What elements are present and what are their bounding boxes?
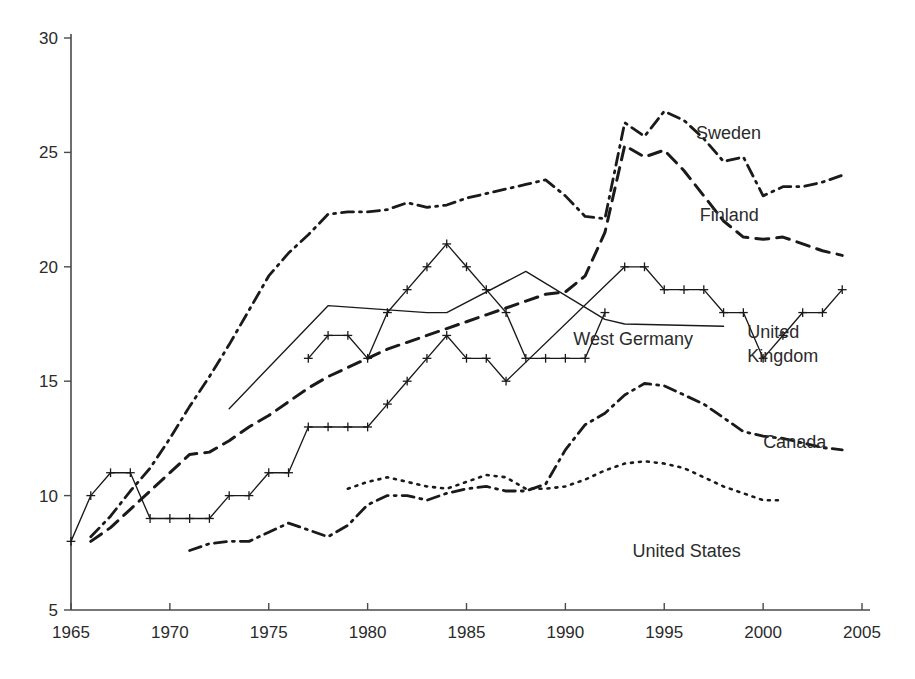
chart-canvas: 5101520253019651970197519801985199019952… <box>0 0 915 679</box>
series-label-sweden: Sweden <box>696 123 761 143</box>
y-tick-label: 25 <box>39 143 58 162</box>
x-tick-label: 1970 <box>151 623 189 642</box>
x-tick-label: 1985 <box>448 623 486 642</box>
series-label-canada: Canada <box>763 432 827 452</box>
x-tick-label: 1995 <box>645 623 683 642</box>
x-tick-label: 1975 <box>250 623 288 642</box>
x-tick-label: 1990 <box>546 623 584 642</box>
series-line <box>348 461 783 500</box>
series-united-kingdom-secondary <box>304 240 609 363</box>
x-tick-label: 1965 <box>52 623 90 642</box>
y-tick-label: 10 <box>39 487 58 506</box>
series-label-united-kingdom: United <box>747 322 799 342</box>
y-tick-label: 30 <box>39 29 58 48</box>
x-tick-label: 1980 <box>349 623 387 642</box>
x-tick-label: 2000 <box>744 623 782 642</box>
series-label-united-kingdom-line2: Kingdom <box>747 346 818 366</box>
y-tick-label: 15 <box>39 372 58 391</box>
y-tick-label: 5 <box>49 601 58 620</box>
series-line <box>190 383 843 550</box>
y-axis-ticks: 51015202530 <box>39 29 71 620</box>
series-sweden <box>91 111 842 537</box>
series-label-west-germany: West Germany <box>573 329 693 349</box>
series-united-states <box>348 461 783 500</box>
series-united-kingdom <box>67 262 847 545</box>
y-tick-label: 20 <box>39 258 58 277</box>
line-chart: 5101520253019651970197519801985199019952… <box>0 0 915 679</box>
series-canada <box>190 383 843 550</box>
series-line <box>91 111 842 537</box>
series-line <box>308 244 605 358</box>
x-tick-label: 2005 <box>843 623 881 642</box>
series-label-finland: Finland <box>700 205 759 225</box>
series-label-united-states: United States <box>633 541 741 561</box>
series-group <box>67 111 847 550</box>
x-axis-ticks: 196519701975198019851990199520002005 <box>52 603 881 642</box>
